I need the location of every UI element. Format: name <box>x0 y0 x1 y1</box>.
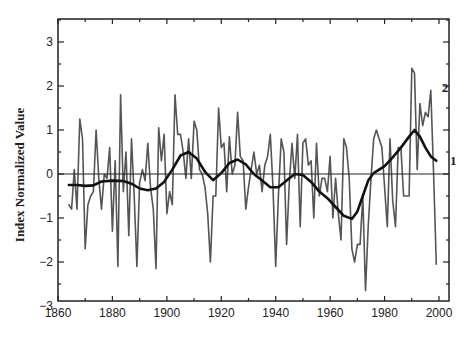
chart-container: 18601880190019201940196019802000 3210−1−… <box>0 0 475 337</box>
y-tick-label: 3 <box>46 35 53 49</box>
y-tick-label: −1 <box>39 211 53 225</box>
series-label-annotation: 1 <box>450 153 457 168</box>
y-tick-label: 0 <box>46 167 53 181</box>
y-tick-label: −3 <box>39 299 53 313</box>
series-layer <box>69 68 436 290</box>
y-tick-label: 1 <box>46 123 53 137</box>
x-tick-label: 1900 <box>154 306 181 320</box>
annual-series-line <box>69 68 436 290</box>
y-axis-label: Index Normalized Value <box>12 108 28 242</box>
x-tick-label: 1960 <box>317 306 344 320</box>
x-tick-label: 1920 <box>208 306 235 320</box>
x-tick-label: 1940 <box>262 306 289 320</box>
y-tick-label: 2 <box>46 79 53 93</box>
series-label-annotation: 2 <box>442 80 449 95</box>
x-tick-label: 2000 <box>426 306 453 320</box>
y-tick-label: −2 <box>39 255 53 269</box>
x-tick-label: 1980 <box>371 306 398 320</box>
line-chart: 18601880190019201940196019802000 3210−1−… <box>0 0 475 337</box>
x-tick-label: 1880 <box>99 306 126 320</box>
